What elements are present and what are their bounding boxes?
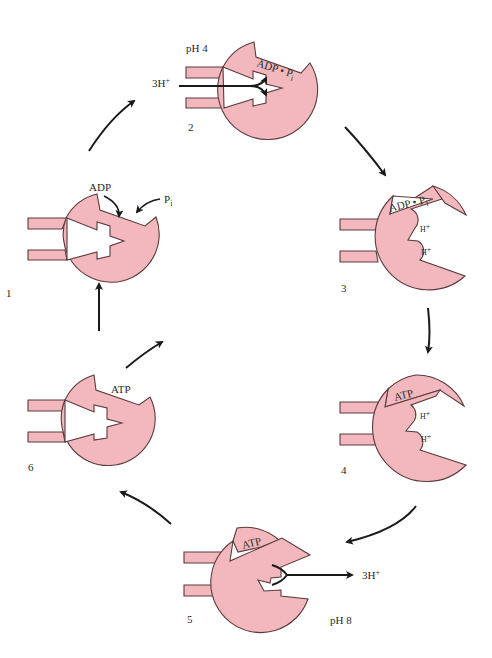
cycle-arrow-2-to-3 — [345, 127, 385, 175]
state-2-enzyme — [186, 42, 318, 140]
state-4-proton-site-1: H+ — [420, 409, 431, 421]
cycle-arrow-4-to-5 — [347, 506, 416, 542]
state-1-enzyme — [28, 194, 159, 282]
state-6-enzyme — [28, 375, 155, 466]
ph4-label: pH 4 — [186, 42, 208, 54]
atp-synthase-cycle-diagram: 1 ADP Pi ADP • Pi pH 4 3H+ 2 ADP • Pi H+… — [0, 0, 492, 658]
state-3-proton-site-1: H+ — [420, 222, 431, 234]
atp-release-arrow — [126, 342, 162, 368]
state-4-number: 4 — [341, 464, 347, 476]
pi-entry-arrow — [137, 199, 160, 212]
state-6-atp-label: ATP — [111, 383, 131, 395]
state-5-number: 5 — [187, 613, 193, 625]
cycle-arrow-1-to-2 — [89, 101, 134, 151]
state-2-number: 2 — [188, 121, 194, 133]
state-4-proton-site-2: H+ — [421, 432, 432, 444]
state-6-number: 6 — [28, 461, 34, 473]
ph8-label: pH 8 — [330, 614, 352, 626]
proton-out-label: 3H+ — [362, 568, 380, 581]
cycle-arrow-5-to-6 — [121, 492, 171, 524]
proton-out-arrow — [272, 565, 352, 575]
state-3-number: 3 — [341, 282, 347, 294]
proton-in-label: 3H+ — [152, 76, 170, 89]
pi-input-label: Pi — [164, 193, 173, 208]
state-1-number: 1 — [6, 287, 12, 299]
adp-input-label: ADP — [89, 181, 111, 193]
cycle-arrow-3-to-4 — [428, 308, 430, 352]
